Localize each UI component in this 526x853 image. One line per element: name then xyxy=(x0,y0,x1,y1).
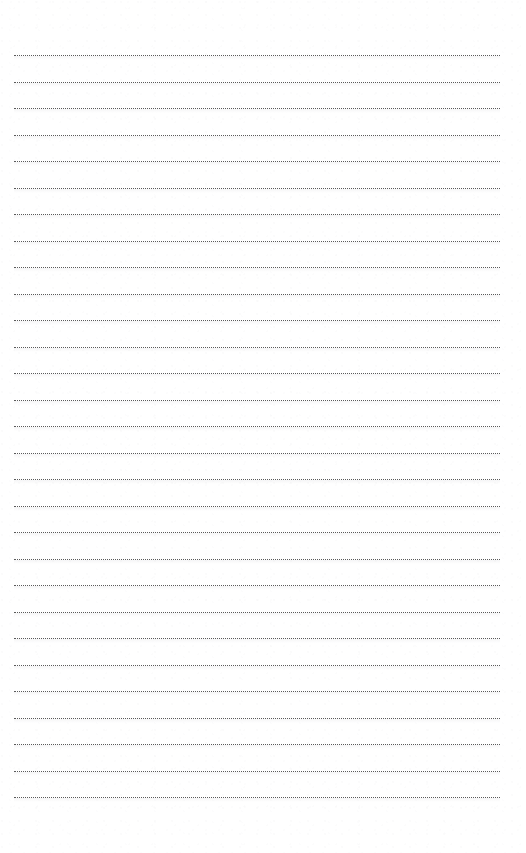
ruled-line xyxy=(14,532,500,533)
ruled-line-halo xyxy=(14,268,500,272)
ruled-line-halo xyxy=(14,666,500,670)
ruled-line xyxy=(14,797,500,798)
ruled-line xyxy=(14,453,500,454)
ruled-line xyxy=(14,161,500,162)
ruled-line xyxy=(14,188,500,189)
ruled-line-halo xyxy=(14,692,500,696)
ruled-line-halo xyxy=(14,507,500,511)
ruled-line-halo xyxy=(14,480,500,484)
ruled-line-halo xyxy=(14,215,500,219)
ruled-line-halo xyxy=(14,56,500,60)
ruled-line-halo xyxy=(14,560,500,564)
ruled-line-halo xyxy=(14,427,500,431)
ruled-line-halo xyxy=(14,189,500,193)
ruled-line xyxy=(14,506,500,507)
ruled-line-halo xyxy=(14,162,500,166)
ruled-line-halo xyxy=(14,533,500,537)
ruled-line-halo xyxy=(14,613,500,617)
ruled-line xyxy=(14,135,500,136)
ruled-line-halo xyxy=(14,798,500,802)
ruled-line xyxy=(14,559,500,560)
ruled-line xyxy=(14,214,500,215)
ruled-line-halo xyxy=(14,321,500,325)
ruled-line-halo xyxy=(14,83,500,87)
ruled-line xyxy=(14,426,500,427)
ruled-line xyxy=(14,55,500,56)
ruled-line xyxy=(14,241,500,242)
ruled-line xyxy=(14,744,500,745)
ruled-line-halo xyxy=(14,242,500,246)
ruled-line-halo xyxy=(14,136,500,140)
ruled-line xyxy=(14,373,500,374)
ruled-line xyxy=(14,585,500,586)
ruled-line xyxy=(14,691,500,692)
ruled-line xyxy=(14,320,500,321)
ruled-line xyxy=(14,82,500,83)
ruled-line-halo xyxy=(14,745,500,749)
ruled-line xyxy=(14,638,500,639)
lined-paper-page xyxy=(0,0,526,853)
ruled-line-halo xyxy=(14,639,500,643)
ruled-line-halo xyxy=(14,109,500,113)
ruled-line-halo xyxy=(14,374,500,378)
ruled-line xyxy=(14,612,500,613)
ruled-line xyxy=(14,771,500,772)
ruled-line-halo xyxy=(14,586,500,590)
ruled-line xyxy=(14,108,500,109)
ruled-line-halo xyxy=(14,348,500,352)
ruled-line xyxy=(14,665,500,666)
ruled-line xyxy=(14,718,500,719)
ruled-line-halo xyxy=(14,719,500,723)
ruled-line-halo xyxy=(14,295,500,299)
ruled-line xyxy=(14,400,500,401)
ruled-line xyxy=(14,267,500,268)
ruled-line xyxy=(14,294,500,295)
ruled-line xyxy=(14,479,500,480)
ruled-line-halo xyxy=(14,772,500,776)
ruled-lines-group xyxy=(0,0,526,853)
ruled-line xyxy=(14,347,500,348)
ruled-line-halo xyxy=(14,401,500,405)
ruled-line-halo xyxy=(14,454,500,458)
